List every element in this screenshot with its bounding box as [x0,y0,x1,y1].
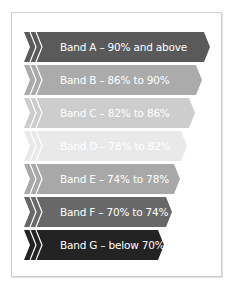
band-a: Band A – 90% and above [24,32,210,62]
band-a-label: Band A – 90% and above [60,32,187,62]
band-e-label: Band E – 74% to 78% [60,164,169,194]
band-f-label: Band F – 70% to 74% [60,197,168,227]
band-c-label: Band C – 82% to 86% [60,98,170,128]
band-e: Band E – 74% to 78% [24,164,180,194]
band-g: Band G – below 70% [24,230,164,260]
band-b: Band B – 86% to 90% [24,65,202,95]
band-d: Band D – 78% to 82% [24,131,187,161]
band-f: Band F – 70% to 74% [24,197,172,227]
band-c: Band C – 82% to 86% [24,98,195,128]
band-d-label: Band D – 78% to 82% [60,131,170,161]
band-g-label: Band G – below 70% [60,230,165,260]
band-b-label: Band B – 86% to 90% [60,65,170,95]
